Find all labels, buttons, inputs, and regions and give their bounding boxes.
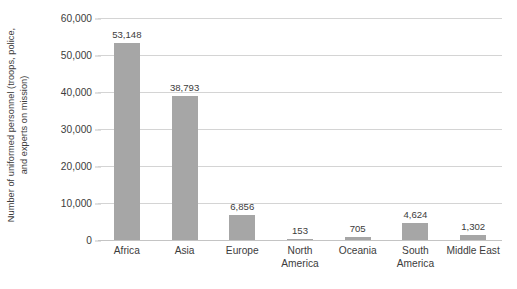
gridline-30000	[98, 129, 502, 130]
bar-value-africa: 53,148	[112, 29, 141, 40]
x-label-oceania: Oceania	[339, 245, 377, 258]
bar-south-america	[402, 223, 428, 240]
y-tick-label-10000: 10,000	[40, 198, 92, 209]
bar-europe	[229, 215, 255, 240]
x-label-line: America	[281, 258, 318, 271]
bar-value-south-america: 4,624	[403, 209, 427, 220]
bar-middle-east	[460, 235, 486, 240]
y-tick-label-40000: 40,000	[40, 87, 92, 98]
x-label-north-america: NorthAmerica	[281, 245, 318, 270]
x-label-line: America	[397, 258, 434, 271]
gridline-20000	[98, 166, 502, 167]
y-axis-title-line-2: and experts on mission)	[18, 28, 31, 222]
x-label-line: Europe	[226, 245, 259, 258]
x-label-line: Africa	[114, 245, 140, 258]
y-axis-title-line-1: Number of uniformed personnel (troops, p…	[5, 28, 18, 222]
gridline-40000	[98, 92, 502, 93]
x-label-line: Middle East	[447, 245, 500, 258]
gridline-60000	[98, 18, 502, 19]
bar-value-north-america: 153	[292, 225, 308, 236]
y-tick-label-50000: 50,000	[40, 50, 92, 61]
gridline-50000	[98, 55, 502, 56]
x-label-line: North	[281, 245, 318, 258]
bar-value-oceania: 705	[350, 223, 366, 234]
y-tick-label-60000: 60,000	[40, 13, 92, 24]
x-label-line: Oceania	[339, 245, 377, 258]
bar-value-asia: 38,793	[170, 82, 199, 93]
x-label-europe: Europe	[226, 245, 259, 258]
gridline-0	[98, 240, 502, 241]
y-axis-title: Number of uniformed personnel (troops, p…	[0, 0, 36, 250]
bar-north-america	[287, 239, 313, 240]
bar-value-europe: 6,856	[230, 201, 254, 212]
x-label-south-america: SouthAmerica	[397, 245, 434, 270]
bar-africa	[114, 43, 140, 240]
x-label-africa: Africa	[114, 245, 140, 258]
x-label-middle-east: Middle East	[447, 245, 500, 258]
bar-chart: Number of uniformed personnel (troops, p…	[0, 0, 517, 289]
y-tick-label-30000: 30,000	[40, 124, 92, 135]
plot-area	[98, 18, 502, 240]
gridline-10000	[98, 203, 502, 204]
x-label-line: South	[397, 245, 434, 258]
bar-oceania	[345, 237, 371, 240]
y-tick-label-0: 0	[40, 235, 92, 246]
bar-asia	[172, 96, 198, 240]
bar-value-middle-east: 1,302	[461, 221, 485, 232]
x-label-line: Asia	[175, 245, 195, 258]
x-label-asia: Asia	[175, 245, 195, 258]
y-tick-label-20000: 20,000	[40, 161, 92, 172]
